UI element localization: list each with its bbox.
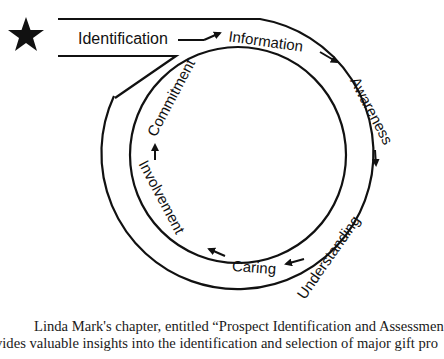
arrow-icon: [286, 259, 304, 264]
band-lower-line: [58, 56, 176, 98]
text-line: Linda Mark's chapter, entitled “Prospect…: [0, 318, 416, 335]
body-text: Linda Mark's chapter, entitled “Prospect…: [0, 318, 416, 351]
stage-understanding: Understanding: [293, 212, 363, 302]
stage-commitment: Commitment: [143, 55, 198, 139]
arrow-icon: [204, 33, 220, 40]
stage-caring: Caring: [231, 257, 276, 277]
stage-involvement: Involvement: [136, 157, 189, 237]
stage-identification: Identification: [78, 30, 168, 47]
text-line: vides valuable insights into the identif…: [0, 335, 416, 352]
inner-ring: [130, 47, 346, 263]
star-icon: [8, 17, 44, 51]
arrow-icon: [209, 249, 225, 256]
cultivation-cycle-diagram: Identification Information Awareness Und…: [0, 0, 416, 305]
arrow-icon: [375, 150, 376, 165]
